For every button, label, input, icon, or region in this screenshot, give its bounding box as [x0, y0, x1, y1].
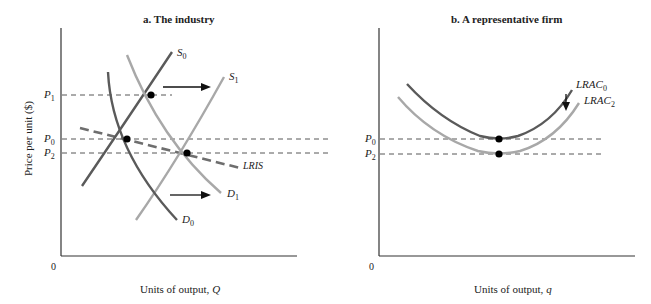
- label-text: P: [365, 147, 372, 159]
- industry-x-axis-label: Units of output, Q: [140, 283, 220, 295]
- label-sub: 2: [372, 153, 376, 162]
- curve-label-s0: S0: [177, 46, 187, 61]
- label-sub: 2: [51, 152, 55, 161]
- lris-curve: [80, 128, 240, 168]
- price-label-p1: P1: [44, 88, 55, 103]
- x-axis-variable: Q: [212, 283, 220, 295]
- curve-label-d0: D0: [182, 213, 194, 228]
- label-text: LRAC: [576, 78, 603, 90]
- price-label-p0: P0: [44, 132, 55, 147]
- equilibrium-point-p2: [183, 149, 190, 156]
- label-sub: 0: [603, 84, 607, 93]
- industry-axes: [61, 28, 297, 256]
- price-label-p2: P2: [44, 146, 55, 161]
- label-sub: 0: [372, 138, 376, 147]
- label-sub: 2: [611, 100, 615, 109]
- equilibrium-point-p1: [147, 91, 154, 98]
- x-axis-variable: q: [546, 283, 552, 295]
- supply-shift-arrow: [163, 83, 211, 91]
- industry-y-axis-label: Price per unit ($): [22, 101, 34, 176]
- demand-shift-arrow: [170, 191, 211, 199]
- label-text: LRAC: [584, 94, 611, 106]
- firm-price-label-p0: P0: [365, 132, 376, 147]
- x-axis-text: Units of output,: [140, 283, 209, 295]
- label-text: D: [227, 187, 235, 199]
- lrac2-curve: [398, 97, 579, 154]
- label-text: D: [182, 213, 190, 225]
- firm-price-label-p2: P2: [365, 147, 376, 162]
- curve-label-lrac0: LRAC0: [576, 78, 607, 93]
- label-text: P: [44, 88, 51, 100]
- label-text: P: [44, 132, 51, 144]
- label-sub: 0: [190, 219, 194, 228]
- label-sub: 0: [183, 52, 187, 61]
- x-axis-text: Units of output,: [474, 283, 543, 295]
- diagram-canvas: [0, 0, 651, 304]
- industry-panel-title: a. The industry: [143, 13, 215, 25]
- firm-price-lines: [380, 139, 601, 154]
- firm-panel-title: b. A representative firm: [451, 13, 562, 25]
- firm-point-p2: [495, 150, 502, 157]
- curve-label-d1: D1: [227, 187, 239, 202]
- firm-origin-label: 0: [369, 261, 374, 272]
- label-sub: 1: [235, 76, 239, 85]
- label-text: P: [44, 146, 51, 158]
- lrac0-curve: [407, 84, 572, 139]
- curve-label-lrac2: LRAC2: [584, 94, 615, 109]
- firm-point-p0: [495, 135, 502, 142]
- curve-label-s1: S1: [229, 70, 239, 85]
- firm-axes: [379, 28, 635, 256]
- firm-x-axis-label: Units of output, q: [474, 283, 552, 295]
- curve-label-lris: LRIS: [243, 160, 263, 171]
- industry-origin-label: 0: [51, 261, 56, 272]
- label-text: P: [365, 132, 372, 144]
- equilibrium-point-p0: [123, 135, 130, 142]
- label-sub: 1: [51, 94, 55, 103]
- label-sub: 1: [235, 193, 239, 202]
